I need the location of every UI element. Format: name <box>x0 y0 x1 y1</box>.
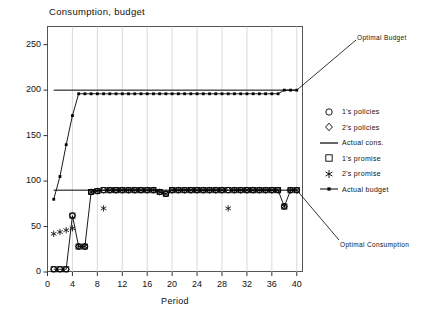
legend-item[interactable]: 2's policies <box>316 120 442 136</box>
x-tick-label: 28 <box>211 279 233 289</box>
legend-marker-line-icon <box>316 137 342 149</box>
legend-marker-square-icon <box>316 152 342 164</box>
legend-marker-circle-icon <box>316 106 342 118</box>
legend-item[interactable]: 2's promise <box>316 166 442 182</box>
y-tick-label: 50 <box>7 221 41 231</box>
x-tick-label: 8 <box>86 279 108 289</box>
legend-item-label: 2's promise <box>342 170 381 177</box>
legend-item-label: 1's promise <box>342 155 381 162</box>
x-tick-label: 0 <box>37 279 59 289</box>
annotation-optimal-consumption: Optimal Consumption <box>340 241 409 248</box>
x-tick-label: 4 <box>61 279 83 289</box>
chart-root: Consumption, budget 050100150200250 0481… <box>0 0 446 325</box>
series-actual-budget <box>52 89 298 201</box>
legend-item[interactable]: 1's promise <box>316 151 442 167</box>
legend-item[interactable]: 1's policies <box>316 104 442 120</box>
legend-item-label: 2's policies <box>342 124 380 131</box>
x-tick-label: 20 <box>161 279 183 289</box>
legend-item[interactable]: Actual budget <box>316 182 442 198</box>
series-markers-square <box>51 188 299 272</box>
y-axis-ticks <box>44 45 48 272</box>
series-actual-consumption <box>54 190 297 269</box>
series-markers-circle <box>51 187 299 272</box>
x-tick-label: 32 <box>236 279 258 289</box>
x-tick-label: 36 <box>261 279 283 289</box>
chart-legend: 1's policies2's policiesActual cons.1's … <box>316 104 442 197</box>
legend-marker-asterisk-icon <box>316 168 342 180</box>
x-axis-title: Period <box>145 296 205 306</box>
y-tick-label: 200 <box>7 84 41 94</box>
x-tick-label: 16 <box>136 279 158 289</box>
legend-marker-diamond-icon <box>316 121 342 133</box>
annotation-optimal-budget: Optimal Budget <box>357 34 407 41</box>
legend-marker-line-dot-icon <box>316 183 342 195</box>
legend-item-label: Actual budget <box>342 186 389 193</box>
legend-item[interactable]: Actual cons. <box>316 135 442 151</box>
series-markers-diamond <box>51 187 300 272</box>
legend-item-label: Actual cons. <box>342 139 384 146</box>
gridlines-vertical <box>72 27 296 273</box>
y-tick-label: 0 <box>7 266 41 276</box>
x-axis-ticks <box>48 272 297 276</box>
y-tick-label: 100 <box>7 175 41 185</box>
y-tick-label: 250 <box>7 39 41 49</box>
x-tick-label: 40 <box>286 279 308 289</box>
y-tick-label: 150 <box>7 130 41 140</box>
x-tick-label: 24 <box>186 279 208 289</box>
x-tick-label: 12 <box>111 279 133 289</box>
legend-item-label: 1's policies <box>342 108 380 115</box>
